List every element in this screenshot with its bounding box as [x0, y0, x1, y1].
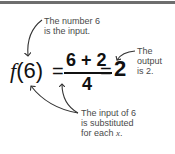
function-argument: (6) [16, 58, 43, 83]
equals-sign-2: = [100, 60, 112, 83]
fraction-denominator: 4 [82, 74, 92, 95]
input-annotation-line1: The number 6 [44, 16, 100, 26]
subst-line3-suffix: . [120, 128, 123, 138]
substitution-annotation-line3: for each x. [81, 128, 136, 138]
substitution-annotation-line2: is substituted [81, 118, 136, 128]
equals-sign-1: = [52, 60, 64, 83]
output-annotation-line2: output [137, 56, 162, 66]
input-annotation-line2: is the input. [44, 26, 100, 36]
result-value: 2 [114, 56, 126, 82]
function-call: f(6) [10, 58, 43, 84]
input-arrow-icon [28, 20, 42, 56]
output-annotation-line3: is 2. [137, 66, 162, 76]
substitution-annotation: The input of 6 is substituted for each x… [81, 108, 136, 138]
output-annotation: The output is 2. [137, 46, 162, 76]
substitution-annotation-line1: The input of 6 [81, 108, 136, 118]
subst-line3-prefix: for each [81, 128, 116, 138]
input-annotation: The number 6 is the input. [44, 16, 100, 36]
substitution-arrow-to-argument-icon [31, 86, 78, 113]
substitution-arrow-to-numerator-icon [62, 84, 78, 113]
output-annotation-line1: The [137, 46, 162, 56]
